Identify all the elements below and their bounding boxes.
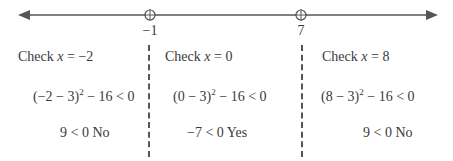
boundary-dashed-line-neg1 <box>148 45 150 157</box>
test-expression: (8 − 3)2 − 16 < 0 <box>321 87 415 105</box>
check-label: Check x = 0 <box>165 49 232 65</box>
test-expression: (0 − 3)2 − 16 < 0 <box>173 87 267 105</box>
number-line <box>0 0 453 30</box>
right-arrow-icon <box>426 10 438 20</box>
test-result: −7 < 0 Yes <box>187 125 247 141</box>
open-circle-marker-neg1 <box>144 9 156 21</box>
boundary-dashed-line-7 <box>301 45 303 157</box>
test-result: 9 < 0 No <box>363 125 413 141</box>
tick-label-neg1: −1 <box>143 23 158 39</box>
open-circle-marker-7 <box>295 9 307 21</box>
test-expression: (−2 − 3)2 − 16 < 0 <box>33 87 134 105</box>
check-label: Check x = −2 <box>18 49 93 65</box>
check-label: Check x = 8 <box>322 49 389 65</box>
tick-label-7: 7 <box>298 23 305 39</box>
test-result: 9 < 0 No <box>60 125 110 141</box>
left-arrow-icon <box>18 10 30 20</box>
